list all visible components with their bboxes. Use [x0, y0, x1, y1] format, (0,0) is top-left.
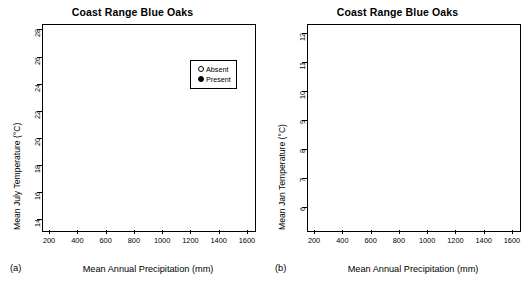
y-tick-label: 24 [24, 80, 38, 88]
x-tick-label: 1600 [230, 236, 264, 245]
y-tick-label: 28 [24, 25, 38, 33]
x-tick-mark [49, 230, 50, 234]
panel-a-title: Coast Range Blue Oaks [0, 6, 265, 18]
panel-b: Coast Range Blue Oaks 200400600800100012… [265, 0, 530, 286]
panel-a-letter: (a) [10, 262, 21, 273]
legend-label-absent: Absent [206, 65, 228, 74]
x-tick-mark [106, 230, 107, 234]
panel-a-ylabel: Mean July Temperature (°C) [12, 123, 22, 230]
legend-item-present: Present [195, 75, 231, 84]
panel-b-xlabel: Mean Annual Precipitation (mm) [307, 264, 519, 274]
y-tick-label: 18 [24, 161, 38, 169]
x-tick-mark [77, 230, 78, 234]
y-tick-label: 22 [24, 107, 38, 115]
x-tick-mark [512, 230, 513, 234]
filled-circle-icon [195, 75, 206, 84]
figure-container: Coast Range Blue Oaks 200400600800100012… [0, 0, 530, 286]
x-tick-mark [427, 230, 428, 234]
y-tick-label: 6 [289, 203, 303, 211]
x-tick-mark [399, 230, 400, 234]
legend-item-absent: Absent [195, 65, 231, 74]
x-tick-mark [342, 230, 343, 234]
x-tick-mark [247, 230, 248, 234]
panel-b-letter: (b) [275, 262, 286, 273]
x-tick-mark [314, 230, 315, 234]
y-tick-label: 7 [289, 174, 303, 182]
panel-a-scatter-canvas [43, 25, 255, 231]
x-tick-mark [219, 230, 220, 234]
legend-box: Absent Present [190, 60, 237, 89]
x-tick-mark [134, 230, 135, 234]
y-tick-label: 20 [24, 134, 38, 142]
open-circle-icon [195, 65, 206, 74]
panel-a-xlabel: Mean Annual Precipitation (mm) [42, 264, 254, 274]
x-tick-mark [455, 230, 456, 234]
panel-a-plot-area [42, 24, 256, 232]
panel-b-title: Coast Range Blue Oaks [265, 6, 530, 18]
y-tick-label: 26 [24, 53, 38, 61]
x-tick-mark [162, 230, 163, 234]
y-tick-label: 11 [289, 58, 303, 66]
y-tick-label: 8 [289, 145, 303, 153]
y-tick-label: 16 [24, 188, 38, 196]
x-tick-mark [190, 230, 191, 234]
legend-label-present: Present [206, 75, 231, 84]
x-tick-mark [371, 230, 372, 234]
panel-b-plot-area [307, 24, 521, 232]
y-tick-label: 12 [289, 29, 303, 37]
panel-a: Coast Range Blue Oaks 200400600800100012… [0, 0, 265, 286]
x-tick-mark [484, 230, 485, 234]
panel-b-scatter-canvas [308, 25, 520, 231]
y-tick-label: 9 [289, 116, 303, 124]
y-tick-label: 10 [289, 87, 303, 95]
y-tick-label: 14 [24, 215, 38, 223]
panel-b-ylabel: Mean Jan Temperature (°C) [277, 124, 287, 230]
x-tick-label: 1600 [495, 236, 529, 245]
